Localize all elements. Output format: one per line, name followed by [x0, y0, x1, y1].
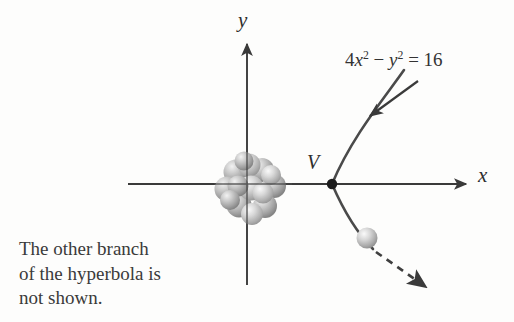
equation-equals-sign: =	[408, 49, 419, 70]
caption-note: The other branch of the hyperbola is not…	[19, 237, 161, 311]
vertex-dot	[327, 179, 337, 189]
equation-constant: 16	[424, 49, 443, 70]
trajectory-continuation	[376, 252, 426, 287]
equation-label: 4x2 − y2 = 16	[345, 50, 443, 69]
figure-canvas: y x V 4x2 − y2 = 16 The other branch of …	[0, 0, 514, 322]
equation-minus-sign: −	[374, 49, 385, 70]
equation-exponent-y: 2	[397, 49, 403, 62]
equation-var-x: x	[355, 49, 363, 70]
axes-group	[128, 44, 466, 285]
equation-exponent-x: 2	[363, 49, 369, 62]
x-axis-label: x	[478, 165, 487, 186]
y-axis-label: y	[238, 10, 247, 31]
equation-coefficient-x: 4	[345, 49, 355, 70]
equation-callout-arrow	[370, 81, 418, 116]
sphere-cluster-at-origin	[215, 152, 287, 226]
vertex-label: V	[307, 152, 319, 172]
single-sphere-on-curve	[357, 228, 378, 249]
hyperbola-branch	[332, 70, 404, 249]
